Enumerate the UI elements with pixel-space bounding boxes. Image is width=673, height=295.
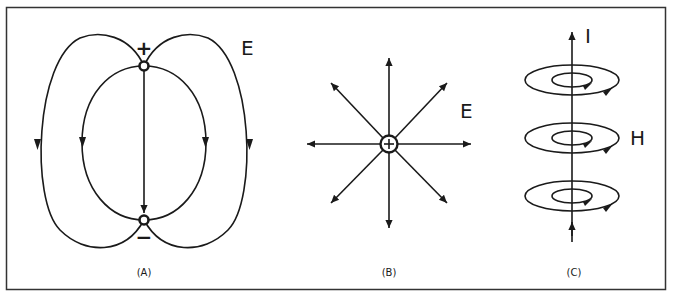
negative-charge-icon: [140, 216, 149, 225]
field-line-inner-right: [144, 66, 206, 220]
plus-sign: +: [136, 36, 153, 60]
panel-a-field-label: E: [241, 36, 254, 60]
field-line-inner-left: [82, 66, 144, 220]
panel-c-current-label: I: [585, 24, 591, 48]
field-line-outer-left: [41, 35, 144, 248]
positive-charge-icon: [381, 136, 398, 153]
panel-c-caption: (C): [567, 267, 582, 278]
arrow-down-icon: [79, 137, 86, 148]
panel-b-field-label: E: [460, 99, 473, 123]
panel-b-caption: (B): [382, 267, 397, 278]
loop-arrow-icon: [603, 145, 613, 154]
field-ray-down-left: [331, 150, 383, 203]
field-ray-up-left: [331, 83, 383, 138]
positive-charge-icon: [140, 62, 149, 71]
field-line-outer-right: [144, 35, 247, 248]
panel-c-loop-arrows: [583, 83, 613, 212]
field-ray-down-right: [395, 150, 447, 203]
panel-a-caption: (A): [137, 267, 152, 278]
minus-sign: −: [136, 225, 153, 249]
loop-arrow-icon: [603, 203, 613, 212]
panel-c-field-label: H: [630, 126, 645, 150]
field-ray-up-right: [395, 83, 447, 138]
arrow-down-icon: [202, 137, 209, 148]
em-field-diagram: + − E (A) E (B): [0, 0, 673, 295]
arrow-down-icon: [34, 139, 41, 150]
loop-arrow-icon: [603, 87, 613, 96]
